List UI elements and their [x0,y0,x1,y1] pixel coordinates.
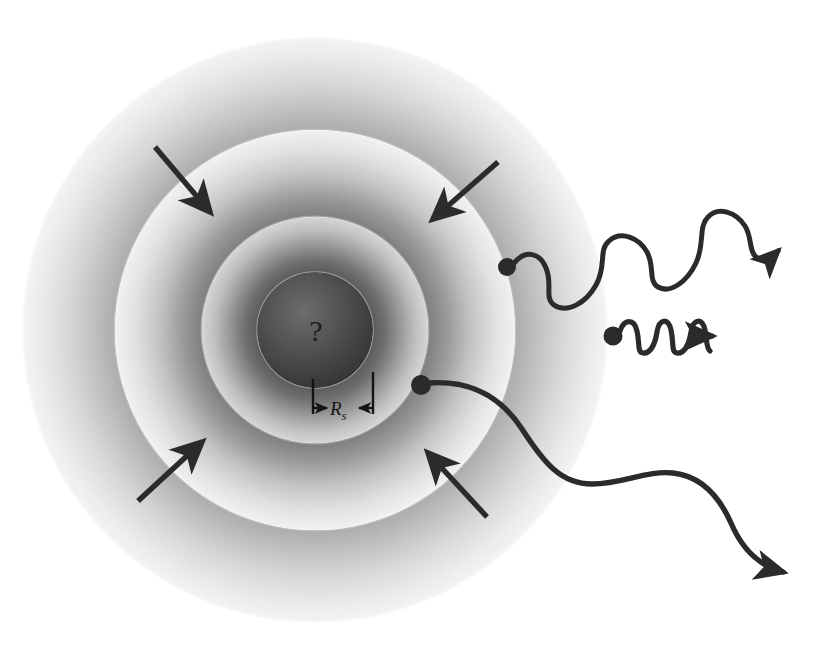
core-unknown-label: ? [309,314,322,347]
rs-subscript: s [342,408,347,423]
diagram-canvas: ? Rs [0,0,835,657]
rs-label: R [329,398,342,419]
collapse-diagram: ? Rs [0,0,835,657]
